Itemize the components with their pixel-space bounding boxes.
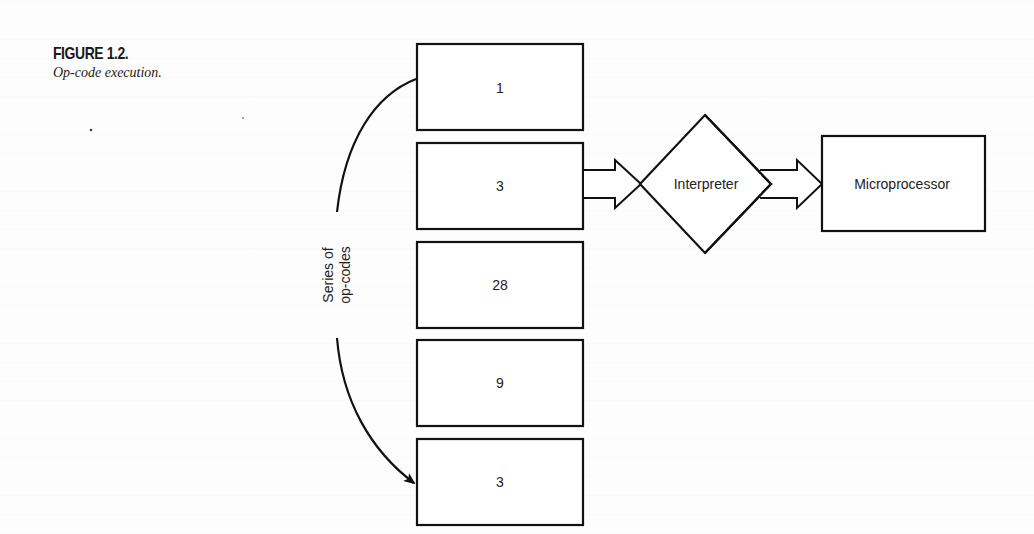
microprocessor-node: Microprocessor — [822, 136, 985, 231]
interpreter-label: Interpreter — [674, 176, 739, 192]
opcode-value: 3 — [496, 178, 504, 194]
opcode-box-2: 3 — [417, 143, 583, 229]
opcode-box-3: 28 — [417, 242, 583, 328]
opcode-value: 1 — [496, 80, 504, 96]
microprocessor-label: Microprocessor — [854, 176, 950, 192]
opcode-value: 28 — [492, 277, 508, 293]
speck — [90, 129, 93, 132]
opcode-box-4: 9 — [417, 340, 583, 426]
series-curve-upper — [337, 79, 416, 212]
block-arrow-to-interpreter-icon — [584, 160, 641, 208]
opcode-box-5: 3 — [417, 439, 583, 525]
opcode-execution-diagram: Series of op-codes 1 3 28 9 3 Interprete… — [0, 0, 1034, 534]
opcode-value: 3 — [496, 474, 504, 490]
series-curve-arrow-icon — [337, 338, 414, 483]
series-label-line2: op-codes — [337, 246, 353, 304]
interpreter-node: Interpreter — [640, 115, 771, 253]
series-label-line1: Series of — [320, 247, 336, 302]
series-label: Series of op-codes — [320, 246, 353, 304]
opcode-box-1: 1 — [417, 44, 583, 130]
block-arrow-to-microprocessor-icon — [760, 160, 822, 208]
speck — [242, 117, 244, 119]
opcode-value: 9 — [496, 375, 504, 391]
